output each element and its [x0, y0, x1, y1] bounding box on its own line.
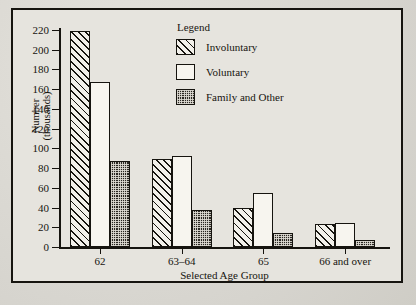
- y-axis-tick: [52, 129, 59, 130]
- x-axis-tick-label: 66 and over: [319, 255, 371, 267]
- y-axis-tick: [52, 227, 59, 228]
- y-axis-tick: [52, 109, 59, 110]
- y-axis-tick: [52, 89, 59, 90]
- bar-group: [59, 30, 141, 247]
- legend-swatch: [176, 89, 195, 105]
- bar: [315, 224, 335, 247]
- y-axis-tick-label: 220: [13, 25, 49, 36]
- legend-label: Voluntary: [206, 66, 249, 78]
- legend-entry: Involuntary: [176, 36, 284, 58]
- bar: [70, 31, 90, 247]
- y-axis-tick: [52, 69, 59, 70]
- bar: [273, 233, 293, 247]
- y-axis-tick-label: 20: [13, 222, 49, 233]
- y-axis-tick: [52, 50, 59, 51]
- bar: [233, 208, 253, 247]
- y-axis-tick-label: 40: [13, 202, 49, 213]
- x-axis-line: [59, 247, 390, 249]
- x-axis-tick-label: 63–64: [168, 255, 196, 267]
- legend-entries: InvoluntaryVoluntaryFamily and Other: [176, 36, 284, 108]
- y-axis-tick-label: 100: [13, 143, 49, 154]
- bar: [90, 82, 110, 247]
- bar: [355, 240, 375, 247]
- legend-swatch: [176, 39, 195, 55]
- legend: Legend InvoluntaryVoluntaryFamily and Ot…: [176, 21, 284, 111]
- bar: [110, 161, 130, 247]
- legend-label: Involuntary: [206, 41, 257, 53]
- x-axis-tick: [345, 249, 346, 254]
- y-axis-tick-label: 140: [13, 103, 49, 114]
- y-axis-tick: [52, 208, 59, 209]
- y-axis-tick: [52, 168, 59, 169]
- x-axis-tick: [263, 249, 264, 254]
- bar: [192, 210, 212, 247]
- bar: [152, 159, 172, 247]
- scanned-page: Number (thousands) 020406080100120140160…: [0, 0, 416, 305]
- bar: [335, 223, 355, 247]
- y-axis-tick-label: 120: [13, 123, 49, 134]
- y-axis-tick: [52, 188, 59, 189]
- bar-group: [304, 30, 386, 247]
- y-axis-tick-label: 180: [13, 64, 49, 75]
- chart-frame: Number (thousands) 020406080100120140160…: [11, 8, 403, 283]
- x-axis-tick-label: 65: [258, 255, 269, 267]
- x-axis-tick: [100, 249, 101, 254]
- y-axis-tick-label: 80: [13, 163, 49, 174]
- y-axis-tick: [52, 148, 59, 149]
- y-axis-tick-label: 200: [13, 44, 49, 55]
- y-axis-tick: [52, 247, 59, 248]
- y-axis-tick-label: 160: [13, 84, 49, 95]
- x-axis-tick: [182, 249, 183, 254]
- x-axis-tick-label: 62: [94, 255, 105, 267]
- legend-entry: Family and Other: [176, 86, 284, 108]
- legend-swatch: [176, 64, 195, 80]
- bar: [253, 193, 273, 247]
- y-axis-tick: [52, 30, 59, 31]
- y-axis-tick-label: 0: [13, 242, 49, 253]
- y-axis-tick-label: 60: [13, 182, 49, 193]
- legend-title: Legend: [176, 21, 284, 33]
- legend-entry: Voluntary: [176, 61, 284, 83]
- legend-label: Family and Other: [206, 91, 284, 103]
- x-axis-title: Selected Age Group: [59, 269, 390, 281]
- bar: [172, 156, 192, 247]
